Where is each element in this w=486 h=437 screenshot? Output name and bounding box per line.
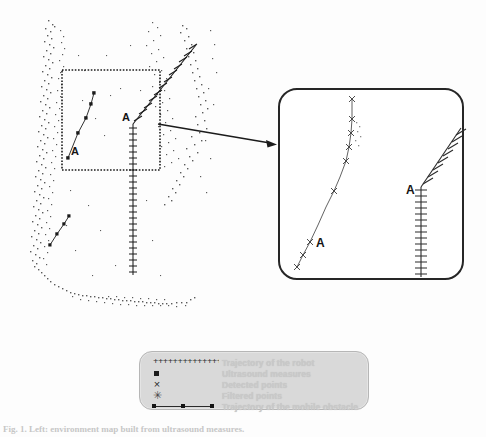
legend-item-filtered-points: ✳ Filtered points <box>148 390 362 401</box>
legend-item-detected-points: × Detected points <box>148 379 362 390</box>
label-a-map-right: A <box>122 112 130 123</box>
line-squares-icon <box>148 401 222 412</box>
legend-label: Trajectory of the robot <box>222 358 315 368</box>
label-a-inset-left: A <box>316 237 325 249</box>
label-a-inset-right: A <box>406 184 415 196</box>
legend-label: Detected points <box>222 380 287 390</box>
legend-item-trajectory-obstacle: Trajectory of the mobile obstacle <box>148 401 362 412</box>
legend-label: Trajectory of the mobile obstacle <box>222 402 358 412</box>
figure-root: A A A A ++++++++++++++ Trajectory of the… <box>0 0 486 437</box>
legend: ++++++++++++++ Trajectory of the robot U… <box>139 351 369 410</box>
plus-row-icon: ++++++++++++++ <box>148 357 222 368</box>
legend-label: Filtered points <box>222 391 282 401</box>
legend-label: Ultrasound measures <box>222 369 311 379</box>
star-icon: ✳ <box>148 390 222 401</box>
figure-caption: Fig. 1. Left: environment map built from… <box>3 424 303 437</box>
legend-item-trajectory-robot: ++++++++++++++ Trajectory of the robot <box>148 357 362 368</box>
legend-item-ultrasound-measures: Ultrasound measures <box>148 368 362 379</box>
inset-border <box>279 89 463 279</box>
label-a-map-left: A <box>71 146 79 157</box>
